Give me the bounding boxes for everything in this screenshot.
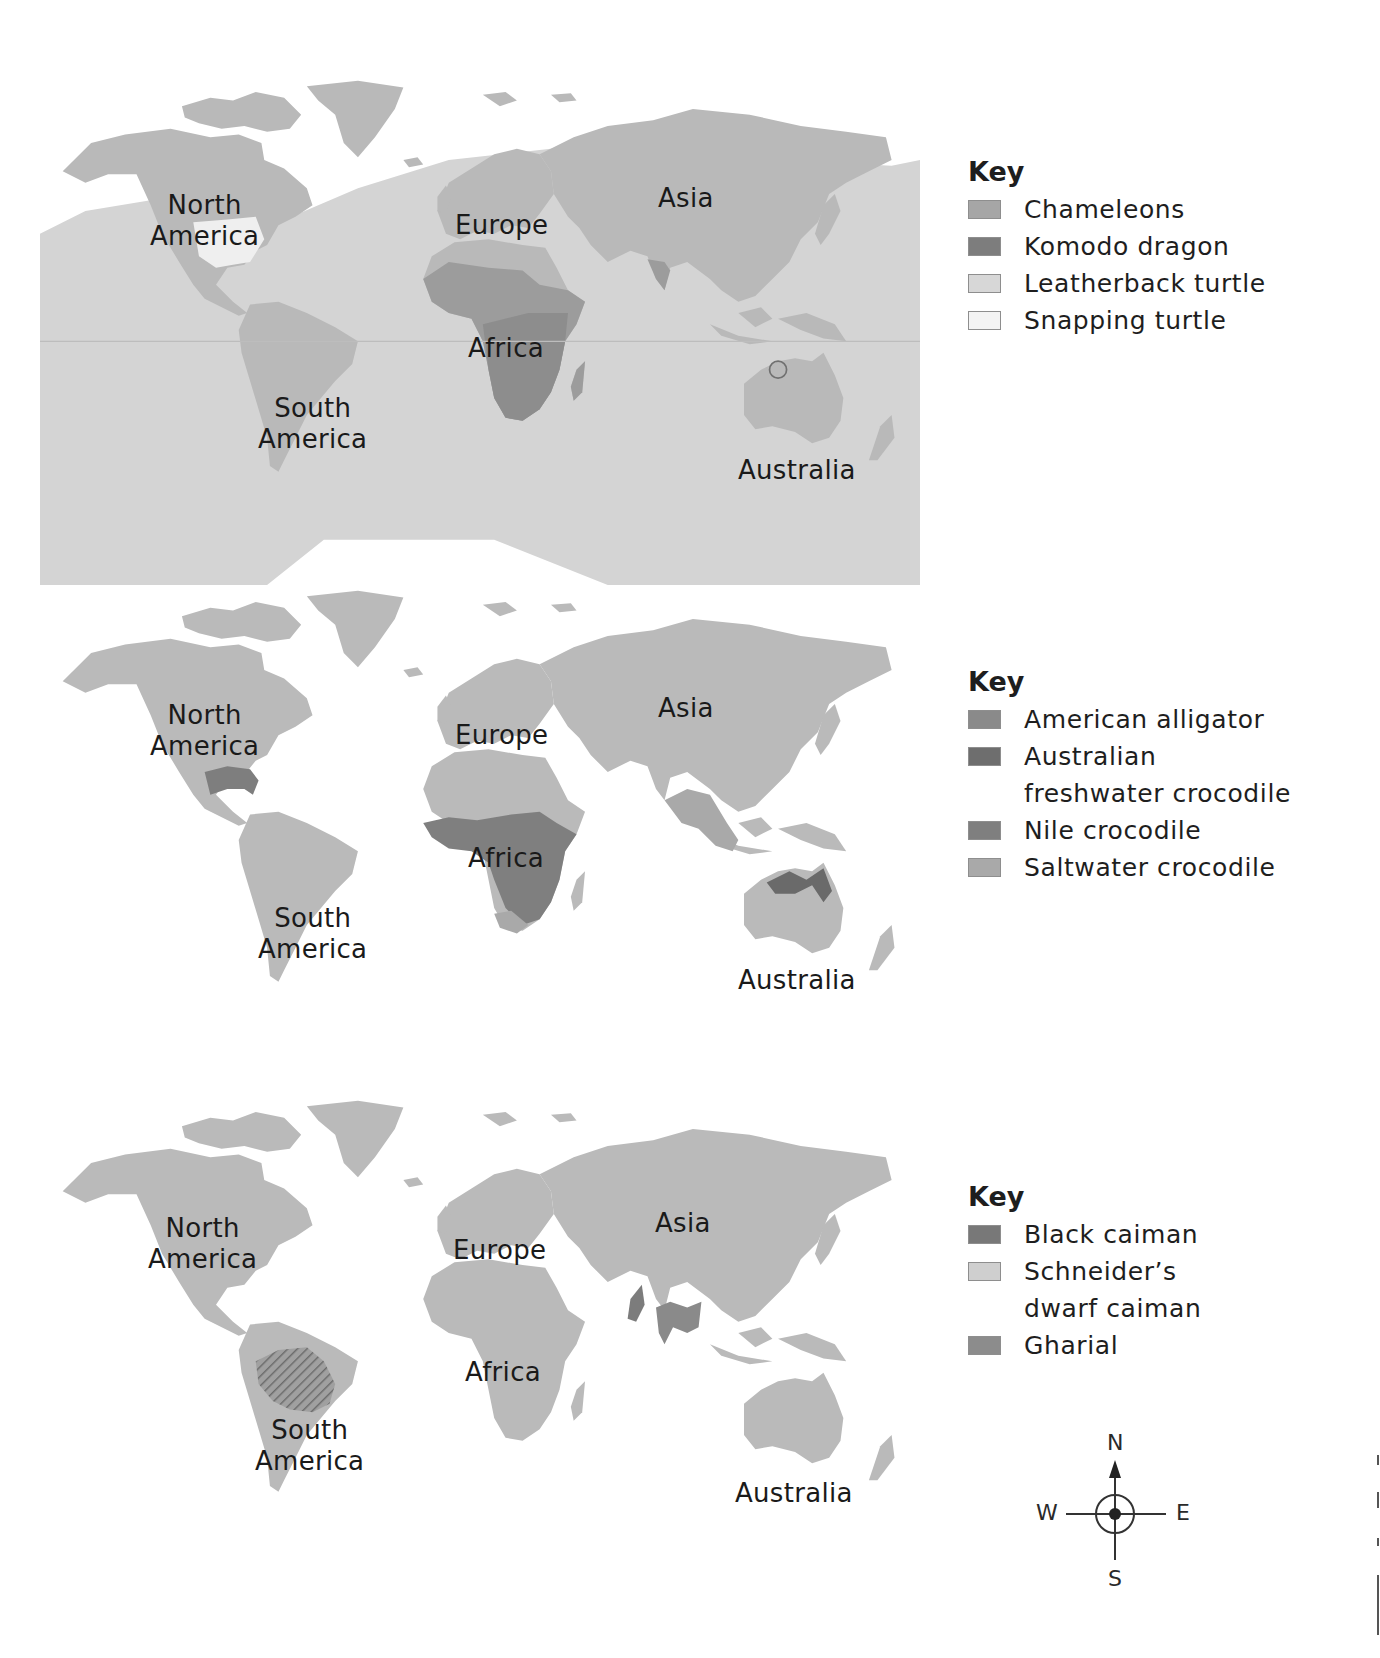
key-legend-2: Key American alligator Australian freshw… <box>968 665 1291 886</box>
swatch-australian-freshwater-crocodile <box>968 747 1001 766</box>
key-item-snapping-turtle: Snapping turtle <box>968 302 1266 339</box>
label-north-america: North America <box>148 1213 257 1275</box>
label-australia: Australia <box>735 1478 853 1509</box>
label-north-america: North America <box>150 190 259 252</box>
edge-mark <box>1377 1492 1379 1508</box>
key-title: Key <box>968 665 1291 699</box>
label-australia: Australia <box>738 455 856 486</box>
label-europe: Europe <box>453 1235 546 1266</box>
label-africa: Africa <box>468 843 544 874</box>
label-south-america: South America <box>255 1415 364 1477</box>
key-item-black-caiman: Black caiman <box>968 1216 1201 1253</box>
key-item-australian-freshwater-crocodile: Australian freshwater crocodile <box>968 738 1291 812</box>
swatch-snapping-turtle <box>968 311 1001 330</box>
label-south-america: South America <box>258 903 367 965</box>
swatch-chameleons <box>968 200 1001 219</box>
key-title: Key <box>968 1180 1201 1214</box>
key-legend-3: Key Black caiman Schneider’s dwarf caima… <box>968 1180 1201 1364</box>
swatch-black-caiman <box>968 1225 1001 1244</box>
world-map-2 <box>40 585 920 1095</box>
american-alligator-range <box>205 766 259 794</box>
label-europe: Europe <box>455 720 548 751</box>
compass-south-label: S <box>1108 1566 1122 1591</box>
swatch-saltwater-crocodile <box>968 858 1001 877</box>
label-asia: Asia <box>658 693 714 724</box>
label-australia: Australia <box>738 965 856 996</box>
key-item-komodo-dragon: Komodo dragon <box>968 228 1266 265</box>
swatch-schneiders-dwarf-caiman <box>968 1262 1001 1281</box>
key-item-schneiders-dwarf-caiman: Schneider’s dwarf caiman <box>968 1253 1201 1327</box>
edge-mark <box>1377 1538 1379 1546</box>
map-panel-crocodilians: North America Europe Asia Africa South A… <box>0 585 1380 1095</box>
world-map-3 <box>40 1095 920 1605</box>
label-africa: Africa <box>465 1357 541 1388</box>
label-asia: Asia <box>658 183 714 214</box>
key-item-saltwater-crocodile: Saltwater crocodile <box>968 849 1291 886</box>
swatch-nile-crocodile <box>968 821 1001 840</box>
swatch-leatherback-turtle <box>968 274 1001 293</box>
key-item-chameleons: Chameleons <box>968 191 1266 228</box>
key-item-nile-crocodile: Nile crocodile <box>968 812 1291 849</box>
gharial-range-east <box>656 1302 701 1345</box>
edge-mark <box>1377 1575 1379 1635</box>
key-item-american-alligator: American alligator <box>968 701 1291 738</box>
key-title: Key <box>968 155 1266 189</box>
label-asia: Asia <box>655 1208 711 1239</box>
label-south-america: South America <box>258 393 367 455</box>
label-africa: Africa <box>468 333 544 364</box>
swatch-american-alligator <box>968 710 1001 729</box>
edge-mark <box>1377 1455 1379 1465</box>
world-map-1 <box>40 75 920 585</box>
key-item-leatherback-turtle: Leatherback turtle <box>968 265 1266 302</box>
compass-east-label: E <box>1176 1500 1190 1525</box>
swatch-gharial <box>968 1336 1001 1355</box>
map-panel-turtles-lizards: North America Europe Asia Africa South A… <box>0 75 1380 585</box>
compass-rose: N S W E <box>1030 1430 1200 1600</box>
key-legend-1: Key Chameleons Komodo dragon Leatherback… <box>968 155 1266 339</box>
key-item-gharial: Gharial <box>968 1327 1201 1364</box>
swatch-komodo-dragon <box>968 237 1001 256</box>
gharial-range-west <box>628 1285 645 1322</box>
label-europe: Europe <box>455 210 548 241</box>
compass-west-label: W <box>1036 1500 1058 1525</box>
compass-north-label: N <box>1107 1430 1123 1455</box>
label-north-america: North America <box>150 700 259 762</box>
